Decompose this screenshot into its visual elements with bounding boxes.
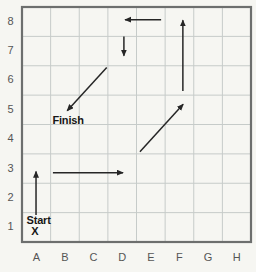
row-label-5: 5 <box>7 103 13 115</box>
column-label-D: D <box>118 251 126 263</box>
row-label-8: 8 <box>7 15 13 27</box>
column-label-C: C <box>90 251 98 263</box>
column-label-G: G <box>204 251 213 263</box>
column-label-F: F <box>176 251 183 263</box>
row-label-1: 1 <box>7 220 13 232</box>
column-label-A: A <box>33 251 41 263</box>
row-label-2: 2 <box>7 191 13 203</box>
column-label-B: B <box>61 251 68 263</box>
row-label-4: 4 <box>7 132 13 144</box>
row-label-6: 6 <box>7 73 13 85</box>
start-x-marker: X <box>31 225 39 237</box>
row-label-3: 3 <box>7 162 13 174</box>
finish-label: Finish <box>52 114 84 126</box>
row-label-7: 7 <box>7 44 13 56</box>
start-label: Start <box>27 214 52 226</box>
grid-map-canvas: ABCDEFGH12345678StartXFinish <box>0 0 256 272</box>
column-label-E: E <box>147 251 154 263</box>
grid-map-figure: ABCDEFGH12345678StartXFinish <box>0 0 256 272</box>
column-label-H: H <box>233 251 241 263</box>
